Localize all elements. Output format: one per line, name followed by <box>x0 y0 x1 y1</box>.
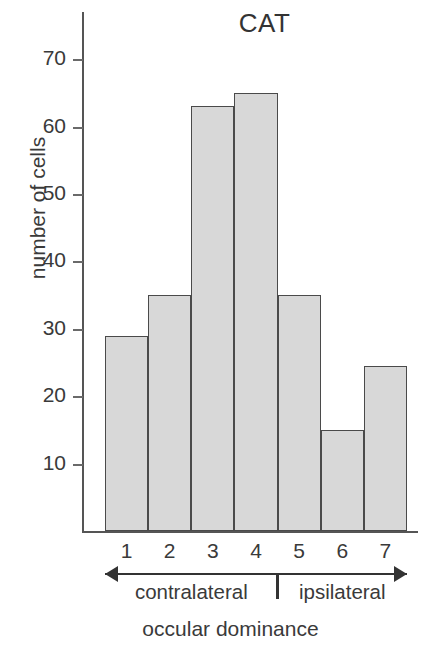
y-axis-line <box>82 12 84 533</box>
figure: CAT number of cells 10203040506070 12345… <box>0 0 433 653</box>
y-tick: 50 <box>73 194 83 196</box>
annotation-label: contralateral <box>105 580 278 604</box>
x-tick-label: 5 <box>279 539 319 563</box>
y-tick-label: 20 <box>43 383 66 407</box>
x-tick-label: 2 <box>150 539 190 563</box>
annotation-label: ipsilateral <box>278 580 407 604</box>
bar <box>234 93 277 531</box>
y-tick-label: 10 <box>43 451 66 475</box>
bar <box>364 366 407 531</box>
y-tick: 40 <box>73 261 83 263</box>
y-tick-label: 40 <box>43 248 66 272</box>
bar-series <box>105 12 407 531</box>
bar <box>321 430 364 531</box>
plot-area: 10203040506070 1234567 <box>82 12 418 533</box>
y-tick: 10 <box>73 464 83 466</box>
y-tick: 30 <box>73 329 83 331</box>
annotation-line <box>278 573 407 575</box>
y-tick-label: 30 <box>43 316 66 340</box>
bar <box>278 295 321 531</box>
axis-annotations: contralateralipsilateral <box>82 563 427 621</box>
annotation-line <box>105 573 278 575</box>
bar <box>191 106 234 531</box>
x-tick-label: 6 <box>322 539 362 563</box>
y-tick-label: 60 <box>43 114 66 138</box>
x-tick-label: 7 <box>365 539 405 563</box>
y-tick: 70 <box>73 59 83 61</box>
bar <box>148 295 191 531</box>
x-axis-line <box>82 531 418 533</box>
x-tick-label: 4 <box>236 539 276 563</box>
y-tick-label: 50 <box>43 181 66 205</box>
x-axis-label: occular dominance <box>0 617 433 641</box>
x-tick-label: 3 <box>193 539 233 563</box>
x-tick-label: 1 <box>107 539 147 563</box>
y-tick: 20 <box>73 396 83 398</box>
bar <box>105 336 148 531</box>
y-tick: 60 <box>73 127 83 129</box>
y-tick-label: 70 <box>43 46 66 70</box>
